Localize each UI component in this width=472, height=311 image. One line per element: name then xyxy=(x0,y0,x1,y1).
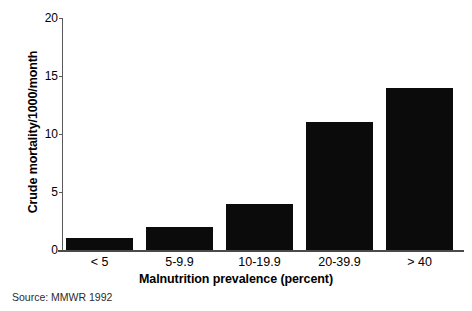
x-axis-line xyxy=(58,250,464,252)
y-axis-tick-label: 15 xyxy=(20,70,58,82)
y-axis-tick-label: 5 xyxy=(20,186,58,198)
bar xyxy=(226,204,293,250)
source-note: Source: MMWR 1992 xyxy=(12,291,112,303)
plot-area xyxy=(63,18,463,250)
x-axis-tick-label: 10-19.9 xyxy=(216,255,303,269)
x-axis-tick-label: > 40 xyxy=(376,255,463,269)
bar-chart-figure: Crude mortality/1000/month 05101520 < 55… xyxy=(0,0,472,311)
x-axis-tick-label: 5-9.9 xyxy=(136,255,223,269)
x-axis-title: Malnutrition prevalence (percent) xyxy=(0,272,472,286)
y-axis-tick-label: 10 xyxy=(20,128,58,140)
y-axis-tick-label: 0 xyxy=(20,244,58,256)
y-axis-tick-label: 20 xyxy=(20,12,58,24)
bar xyxy=(66,238,133,250)
bar xyxy=(146,227,213,250)
x-axis-tick-label: 20-39.9 xyxy=(296,255,383,269)
bar xyxy=(386,88,453,250)
bar xyxy=(306,122,373,250)
x-axis-tick-label: < 5 xyxy=(56,255,143,269)
